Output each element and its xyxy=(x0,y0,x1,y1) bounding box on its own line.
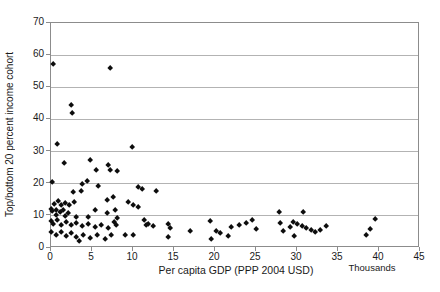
x-tick-label-20: 20 xyxy=(198,251,230,263)
y-tick-mark xyxy=(46,150,50,151)
x-tick-label-30: 30 xyxy=(280,251,312,263)
gridline-y-50 xyxy=(51,87,418,88)
x-axis-title: Per capita GDP (PPP 2004 USD) xyxy=(116,264,356,276)
x-tick-label-10: 10 xyxy=(116,251,148,263)
x-tick-mark xyxy=(378,247,379,251)
y-tick-label-30: 30 xyxy=(0,145,44,157)
y-tick-mark xyxy=(46,214,50,215)
gridline-y-40 xyxy=(51,119,418,120)
x-tick-label-0: 0 xyxy=(34,251,66,263)
y-tick-mark xyxy=(46,118,50,119)
y-tick-label-50: 50 xyxy=(0,80,44,92)
gridline-y-30 xyxy=(51,151,418,152)
x-tick-mark xyxy=(91,247,92,251)
x-tick-label-25: 25 xyxy=(239,251,271,263)
x-tick-mark xyxy=(255,247,256,251)
x-tick-label-15: 15 xyxy=(157,251,189,263)
x-axis-unit-label: Thousands xyxy=(327,262,417,273)
y-tick-label-40: 40 xyxy=(0,112,44,124)
y-tick-label-20: 20 xyxy=(0,177,44,189)
y-tick-label-70: 70 xyxy=(0,16,44,28)
x-tick-label-5: 5 xyxy=(75,251,107,263)
gridline-y-60 xyxy=(51,55,418,56)
x-tick-mark xyxy=(214,247,215,251)
x-tick-mark xyxy=(337,247,338,251)
x-tick-mark xyxy=(173,247,174,251)
x-tick-mark xyxy=(50,247,51,251)
y-tick-mark xyxy=(46,22,50,23)
y-tick-mark xyxy=(46,54,50,55)
x-tick-mark xyxy=(132,247,133,251)
scatter-chart: Top/bottom 20 percent income cohort 0102… xyxy=(0,0,440,292)
y-tick-mark xyxy=(46,86,50,87)
y-tick-label-60: 60 xyxy=(0,48,44,60)
x-tick-mark xyxy=(419,247,420,251)
gridline-y-20 xyxy=(51,183,418,184)
y-tick-label-10: 10 xyxy=(0,209,44,221)
x-tick-mark xyxy=(296,247,297,251)
